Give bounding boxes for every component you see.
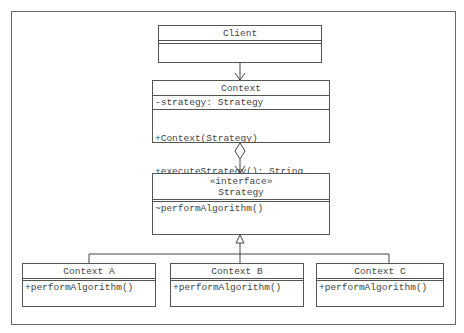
class-name: Client	[159, 26, 321, 41]
class-name: Context	[153, 81, 329, 96]
class-name: Strategy	[153, 187, 329, 198]
method: ~performAlgorithm()	[153, 202, 329, 215]
class-context[interactable]: Context -strategy: Strategy +Context(Str…	[152, 80, 330, 143]
divider	[159, 41, 321, 44]
class-header: «interface» Strategy	[153, 174, 329, 200]
method: +Context(Strategy)	[155, 133, 327, 144]
class-client[interactable]: Client	[158, 25, 322, 63]
class-name: Context A	[23, 264, 155, 279]
class-context-b[interactable]: Context B +performAlgorithm()	[170, 263, 304, 307]
class-context-c[interactable]: Context C +performAlgorithm()	[316, 263, 444, 307]
class-name: Context C	[317, 264, 443, 279]
method: +performAlgorithm()	[23, 281, 155, 294]
stereotype: «interface»	[153, 176, 329, 187]
class-context-a[interactable]: Context A +performAlgorithm()	[22, 263, 156, 307]
method: +performAlgorithm()	[171, 281, 303, 294]
class-name: Context B	[171, 264, 303, 279]
class-strategy-interface[interactable]: «interface» Strategy ~performAlgorithm()	[152, 173, 330, 235]
method: +performAlgorithm()	[317, 281, 443, 294]
attribute: -strategy: Strategy	[153, 96, 329, 109]
realization-triangle-icon	[236, 235, 244, 243]
